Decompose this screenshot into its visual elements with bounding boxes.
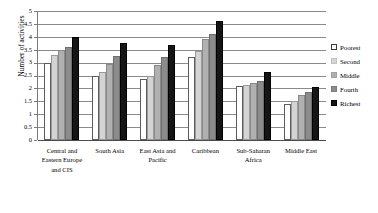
x-axis-category-label: Sub-Saharan Africa bbox=[229, 146, 277, 174]
legend-swatch-icon bbox=[331, 86, 337, 92]
bar-group bbox=[134, 11, 182, 140]
bar[interactable] bbox=[209, 34, 216, 140]
legend-swatch-icon bbox=[331, 100, 337, 106]
bar[interactable] bbox=[236, 86, 243, 140]
y-axis-tick-label: 1.5 bbox=[24, 97, 32, 105]
y-axis-tick-label: 4 bbox=[29, 33, 32, 41]
bar[interactable] bbox=[161, 57, 168, 140]
x-axis-category-label: Caribbean bbox=[181, 146, 229, 174]
legend-item[interactable]: Fourth bbox=[331, 82, 378, 96]
bar[interactable] bbox=[284, 104, 291, 140]
bar[interactable] bbox=[257, 81, 264, 140]
bar[interactable] bbox=[106, 64, 113, 140]
gridline bbox=[38, 140, 326, 141]
bar[interactable] bbox=[113, 56, 120, 140]
bar[interactable] bbox=[58, 50, 65, 140]
legend-item-label: Poorest bbox=[340, 44, 360, 51]
y-axis-tick-label: 2 bbox=[29, 84, 32, 92]
y-axis-tick-mark bbox=[34, 140, 37, 141]
legend-swatch-icon bbox=[331, 58, 337, 64]
bar[interactable] bbox=[188, 57, 195, 140]
bar[interactable] bbox=[216, 21, 223, 140]
x-axis-category-labels: Central and Eastern Europe and CISSouth … bbox=[38, 146, 325, 174]
bar[interactable] bbox=[99, 72, 106, 140]
bar[interactable] bbox=[202, 39, 209, 140]
bar[interactable] bbox=[140, 79, 147, 140]
bar-group bbox=[181, 11, 229, 140]
bar[interactable] bbox=[147, 76, 154, 141]
legend-item-label: Second bbox=[340, 58, 360, 65]
bar[interactable] bbox=[250, 83, 257, 140]
legend-item-label: Richest bbox=[340, 100, 360, 107]
y-axis-tick-label: 5 bbox=[29, 7, 32, 15]
bar[interactable] bbox=[65, 47, 72, 140]
x-axis-category-label: East Asia and Pacific bbox=[134, 146, 182, 174]
y-axis-tick-label: 4.5 bbox=[24, 20, 32, 28]
x-axis-category-label: South Asia bbox=[86, 146, 134, 174]
bar[interactable] bbox=[264, 72, 271, 140]
bar[interactable] bbox=[195, 51, 202, 140]
bar-group bbox=[86, 11, 134, 140]
bar[interactable] bbox=[298, 95, 305, 140]
bar[interactable] bbox=[168, 45, 175, 140]
legend-swatch-icon bbox=[331, 44, 337, 50]
bar-group bbox=[38, 11, 86, 140]
bar[interactable] bbox=[120, 43, 127, 140]
bar[interactable] bbox=[44, 63, 51, 140]
x-axis-category-label: Middle East bbox=[277, 146, 325, 174]
legend-item[interactable]: Second bbox=[331, 54, 378, 68]
chart-legend: PoorestSecondMiddleFourthRichest bbox=[331, 40, 378, 110]
legend-item-label: Middle bbox=[340, 72, 360, 79]
y-axis-tick-label: 3 bbox=[29, 58, 32, 66]
legend-item[interactable]: Middle bbox=[331, 68, 378, 82]
bar[interactable] bbox=[312, 87, 319, 140]
legend-item-label: Fourth bbox=[340, 86, 358, 93]
bars-layer bbox=[38, 11, 325, 140]
bar[interactable] bbox=[291, 101, 298, 140]
y-axis-tick-label: 3.5 bbox=[24, 46, 32, 54]
y-axis-tick-label: 2.5 bbox=[24, 71, 32, 79]
bar[interactable] bbox=[72, 37, 79, 140]
y-axis-tick-label: 0.5 bbox=[24, 123, 32, 131]
bar[interactable] bbox=[51, 55, 58, 140]
bar-chart: Number of activities 54.543.532.521.510.… bbox=[0, 0, 378, 213]
bar-group bbox=[229, 11, 277, 140]
bar[interactable] bbox=[243, 85, 250, 140]
bar[interactable] bbox=[154, 65, 161, 140]
bar[interactable] bbox=[305, 92, 312, 140]
x-axis-category-label: Central and Eastern Europe and CIS bbox=[38, 146, 86, 174]
legend-item[interactable]: Richest bbox=[331, 96, 378, 110]
bar[interactable] bbox=[92, 76, 99, 141]
y-axis-tick-label: 1 bbox=[29, 110, 32, 118]
legend-item[interactable]: Poorest bbox=[331, 40, 378, 54]
legend-swatch-icon bbox=[331, 72, 337, 78]
y-axis-tick-label: 0 bbox=[29, 136, 32, 144]
bar-group bbox=[277, 11, 325, 140]
